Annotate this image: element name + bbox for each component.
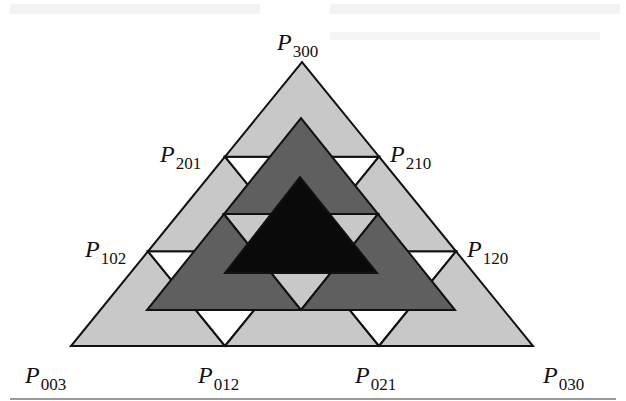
bezier-triangle-diagram: P300P201P210P102P120P003P012P021P030 — [0, 0, 626, 401]
